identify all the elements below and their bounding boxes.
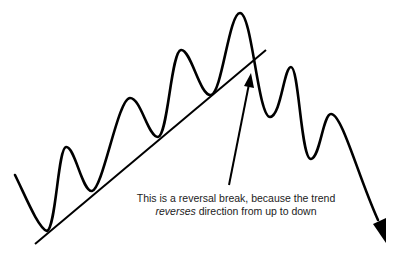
end-arrowhead-icon [373, 218, 386, 243]
caption-emphasis: reverses [155, 205, 195, 217]
reversal-break-diagram: This is a reversal break, because the tr… [0, 0, 399, 253]
caption-line-2: reverses direction from up to down [130, 205, 342, 218]
caption-line-1: This is a reversal break, because the tr… [130, 192, 342, 205]
caption-line-2-rest: direction from up to down [196, 205, 317, 217]
caption: This is a reversal break, because the tr… [130, 192, 342, 218]
pointer-arrow-shaft [229, 84, 249, 185]
pointer-arrowhead-icon [244, 73, 254, 88]
